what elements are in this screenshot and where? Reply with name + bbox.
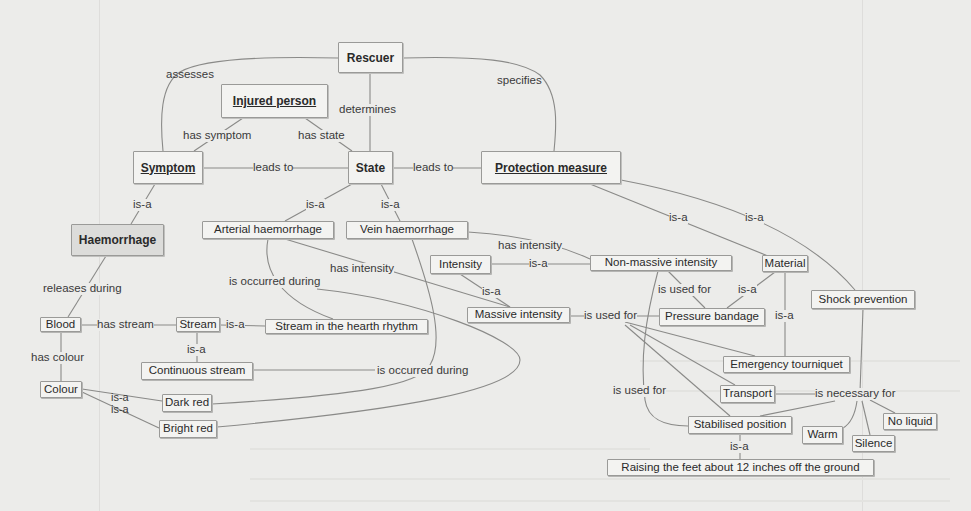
node-stabilised-position: Stabilised position <box>688 416 792 434</box>
link-label-isa: is-a <box>482 286 501 298</box>
link-label-is-necessary-for: is necessary for <box>815 388 896 400</box>
node-shock-prevention: Shock prevention <box>811 290 915 309</box>
node-protection-measure: Protection measure <box>481 151 621 184</box>
edge-necessary-silence <box>862 401 870 435</box>
node-injured-person: Injured person <box>221 84 328 118</box>
node-symptom: Symptom <box>133 151 203 184</box>
link-label-isa: is-a <box>745 212 764 224</box>
node-continuous-stream: Continuous stream <box>141 362 253 380</box>
link-label-isa: is-a <box>187 344 206 356</box>
link-label-leads-to-1: leads to <box>253 162 293 174</box>
node-vein-haemorrhage: Vein haemorrhage <box>346 221 468 239</box>
link-label-is-occurred-during: is occurred during <box>229 276 320 288</box>
node-emergency-tourniquet: Emergency tourniquet <box>723 356 850 373</box>
node-blood: Blood <box>40 317 81 332</box>
link-label-specifies: specifies <box>497 75 542 87</box>
link-label-isa: is-a <box>133 199 152 211</box>
link-label-has-stream: has stream <box>97 319 154 331</box>
link-label-assesses: assesses <box>166 69 214 81</box>
link-label-isa: is-a <box>529 258 548 270</box>
edge-necessary-warm <box>843 401 857 428</box>
node-no-liquid: No liquid <box>883 413 937 430</box>
link-label-isa: is-a <box>669 212 688 224</box>
link-label-isa: is-a <box>738 284 757 296</box>
node-rescuer: Rescuer <box>338 42 403 73</box>
link-label-determines: determines <box>339 104 396 116</box>
node-pressure-bandage: Pressure bandage <box>659 308 765 326</box>
edge-necessary-stabilised <box>760 401 835 416</box>
link-label-has-intensity: has intensity <box>498 240 562 252</box>
edge-shock-down <box>860 309 863 392</box>
node-state: State <box>348 151 393 184</box>
node-transport: Transport <box>720 385 775 403</box>
edge-used-for-stabilised <box>625 325 730 416</box>
node-stream: Stream <box>176 317 220 332</box>
node-dark-red: Dark red <box>162 394 212 412</box>
link-label-isa: is-a <box>775 310 794 322</box>
link-label-releases-during: releases during <box>43 283 122 295</box>
node-raising-the-feet: Raising the feet about 12 inches off the… <box>607 459 874 476</box>
node-non-massive-intensity: Non-massive intensity <box>590 255 732 271</box>
link-label-is-used-for: is used for <box>658 284 711 296</box>
link-label-isa: is-a <box>111 404 129 415</box>
link-label-isa: is-a <box>226 319 245 331</box>
node-haemorrhage: Haemorrhage <box>71 224 164 256</box>
link-label-leads-to-2: leads to <box>413 162 453 174</box>
node-silence: Silence <box>852 435 895 452</box>
link-label-is-used-for: is used for <box>584 310 637 322</box>
link-label-isa: is-a <box>381 199 400 211</box>
edge-isa-pm-shock <box>621 180 855 290</box>
link-label-isa: is-a <box>730 441 749 453</box>
link-label-isa: is-a <box>306 199 325 211</box>
edge-necessary-noliquid <box>870 400 895 413</box>
link-label-has-state: has state <box>298 130 345 142</box>
node-massive-intensity: Massive intensity <box>467 307 570 323</box>
link-label-has-colour: has colour <box>31 352 84 364</box>
link-label-is-occurred-during: is occurred during <box>377 365 468 377</box>
node-stream-in-heart-rhythm: Stream in the hearth rhythm <box>265 319 428 334</box>
edge-specifies <box>403 58 556 151</box>
node-bright-red: Bright red <box>159 420 217 438</box>
link-label-has-symptom: has symptom <box>183 130 251 142</box>
node-material: Material <box>762 255 808 272</box>
link-label-is-used-for: is used for <box>613 385 666 397</box>
concept-map-page: assesses determines specifies has sympto… <box>0 0 971 511</box>
node-warm: Warm <box>802 426 843 444</box>
link-label-has-intensity: has intensity <box>330 263 394 275</box>
node-arterial-haemorrhage: Arterial haemorrhage <box>202 221 334 239</box>
link-label-isa: is-a <box>111 392 129 403</box>
node-colour: Colour <box>40 381 82 398</box>
node-intensity: Intensity <box>430 255 491 274</box>
